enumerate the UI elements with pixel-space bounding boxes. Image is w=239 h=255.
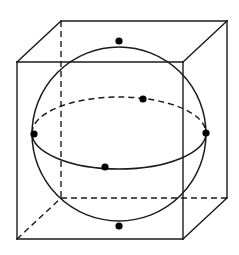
point-equator-left xyxy=(30,130,37,137)
sphere-in-cube-diagram xyxy=(0,0,239,255)
point-south-pole xyxy=(115,222,122,229)
point-north-pole xyxy=(115,37,122,44)
point-equator-right xyxy=(202,129,209,136)
point-equator-back xyxy=(139,95,146,102)
figure-container xyxy=(0,0,239,255)
point-equator-front xyxy=(101,163,108,170)
